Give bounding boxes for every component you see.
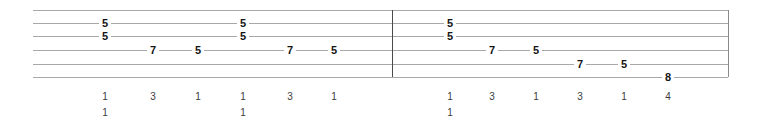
guitar-tab-sheet: 557555751311311155757581313141 <box>0 0 763 128</box>
tab-note-m2-s3: 5 <box>444 30 456 43</box>
fingering-m1-row2: 1 <box>99 108 111 118</box>
fingering-m1-row1: 1 <box>237 92 249 102</box>
staff-line-string-4 <box>33 50 728 51</box>
staff-line-string-6 <box>33 77 728 78</box>
fingering-m2-row1: 1 <box>530 92 542 102</box>
tab-note-m2-s5: 5 <box>618 58 630 71</box>
measure-barline <box>392 10 393 77</box>
tab-note-m1-s4: 7 <box>147 44 159 57</box>
fingering-m1-row1: 1 <box>192 92 204 102</box>
fingering-m2-row1: 1 <box>618 92 630 102</box>
tab-note-m2-s2: 5 <box>444 17 456 30</box>
tab-note-m2-s6: 8 <box>662 71 674 84</box>
tab-note-m1-s4: 5 <box>192 44 204 57</box>
tab-note-m1-s3: 5 <box>99 30 111 43</box>
tab-note-m1-s2: 5 <box>99 17 111 30</box>
staff-line-string-1 <box>33 10 728 11</box>
tab-note-m2-s4: 5 <box>530 44 542 57</box>
tab-staff: 557555751311311155757581313141 <box>0 0 763 128</box>
fingering-m1-row1: 1 <box>328 92 340 102</box>
fingering-m1-row1: 1 <box>99 92 111 102</box>
staff-line-string-2 <box>33 23 728 24</box>
fingering-m1-row1: 3 <box>147 92 159 102</box>
tab-note-m2-s5: 7 <box>574 58 586 71</box>
fingering-m2-row2: 1 <box>444 108 456 118</box>
fingering-m2-row1: 4 <box>662 92 674 102</box>
fingering-m2-row1: 3 <box>486 92 498 102</box>
tab-note-m1-s2: 5 <box>237 17 249 30</box>
fingering-m2-row1: 1 <box>444 92 456 102</box>
tab-note-m1-s3: 5 <box>237 30 249 43</box>
staff-line-string-3 <box>33 36 728 37</box>
fingering-m2-row1: 3 <box>574 92 586 102</box>
end-barline <box>728 10 729 77</box>
fingering-m1-row2: 1 <box>237 108 249 118</box>
tab-note-m1-s4: 7 <box>284 44 296 57</box>
fingering-m1-row1: 3 <box>284 92 296 102</box>
tab-note-m1-s4: 5 <box>328 44 340 57</box>
tab-note-m2-s4: 7 <box>486 44 498 57</box>
